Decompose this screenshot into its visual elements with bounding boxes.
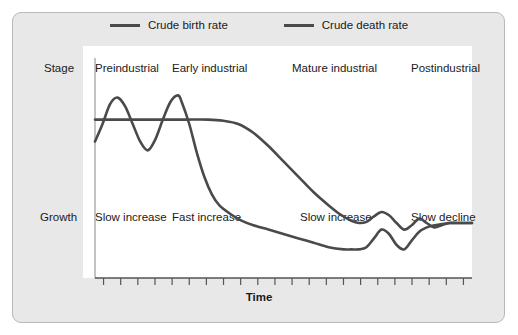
stage-name-postindustrial: Postindustrial	[411, 62, 480, 74]
plot-area	[83, 46, 472, 278]
legend-swatch-birth-icon	[110, 24, 140, 27]
growth-name-stage-3: Slow increase	[300, 211, 372, 223]
stage-name-mature-industrial: Mature industrial	[292, 62, 377, 74]
row-label-stage: Stage	[44, 62, 74, 74]
stage-name-preindustrial: Preindustrial	[95, 62, 159, 74]
legend-label-death: Crude death rate	[322, 19, 408, 31]
legend-swatch-death-icon	[284, 24, 314, 27]
legend-item-birth: Crude birth rate	[110, 19, 228, 31]
legend-item-death: Crude death rate	[284, 19, 408, 31]
growth-name-stage-2: Fast increase	[172, 211, 241, 223]
growth-name-stage-4: Slow decline	[411, 211, 476, 223]
legend-label-birth: Crude birth rate	[148, 19, 228, 31]
chart-legend: Crude birth rate Crude death rate	[0, 14, 518, 36]
stage-name-early-industrial: Early industrial	[172, 62, 247, 74]
row-label-growth: Growth	[40, 211, 77, 223]
growth-name-stage-1: Slow increase	[95, 211, 167, 223]
x-axis-title: Time	[0, 291, 518, 303]
